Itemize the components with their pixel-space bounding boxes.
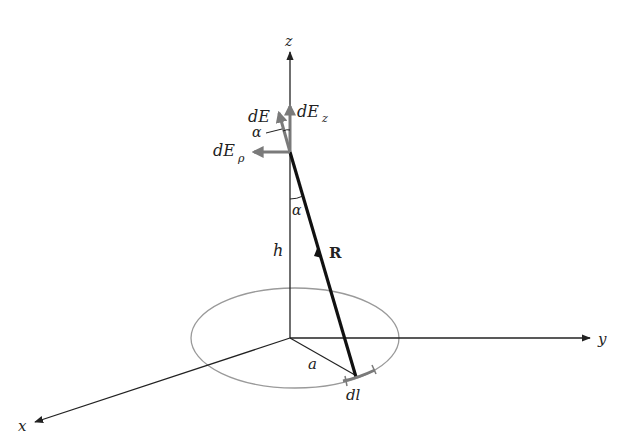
dEz-subscript: z bbox=[321, 112, 328, 125]
a-label: a bbox=[308, 355, 317, 373]
alpha-leader bbox=[266, 129, 282, 133]
dl-element bbox=[343, 370, 375, 381]
dErho-label: dE bbox=[213, 141, 235, 160]
alpha-bottom-label: α bbox=[292, 202, 302, 218]
dEz-label: dE bbox=[297, 102, 319, 121]
z-axis-label: z bbox=[284, 33, 293, 49]
alpha-arc bbox=[290, 196, 303, 199]
x-axis bbox=[35, 338, 290, 422]
dl-label: dl bbox=[346, 386, 361, 404]
dl-tick-left bbox=[345, 376, 347, 386]
alpha-top-label: α bbox=[252, 124, 262, 140]
ring-charge-diagram: z y x dE dE z dE ρ α α h R a dl bbox=[0, 0, 639, 447]
y-axis-label: y bbox=[597, 330, 607, 348]
dErho-subscript: ρ bbox=[237, 152, 245, 165]
R-label: R bbox=[329, 244, 342, 262]
x-axis-label: x bbox=[18, 417, 27, 435]
h-label: h bbox=[273, 241, 283, 260]
dE-vector bbox=[279, 113, 290, 152]
